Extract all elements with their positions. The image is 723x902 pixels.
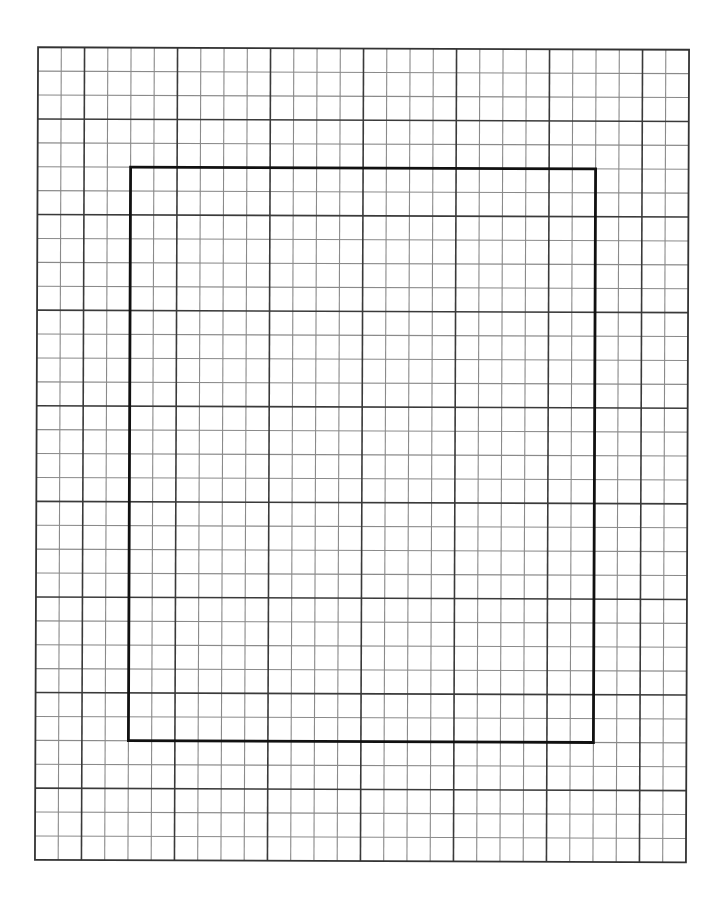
grid-canvas — [0, 0, 723, 902]
grid — [35, 47, 689, 862]
graph-paper — [0, 0, 723, 902]
